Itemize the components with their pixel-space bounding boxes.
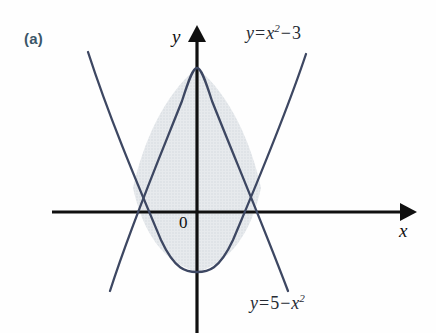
upper-curve-equation-label: y=x2−3 xyxy=(246,22,301,44)
x-axis-arrowhead xyxy=(400,203,417,221)
equation2-exponent: 2 xyxy=(299,292,305,304)
origin-label: 0 xyxy=(179,213,188,233)
equation2-lhs-y: y xyxy=(250,293,258,313)
part-label: (a) xyxy=(24,30,43,47)
equation-term-x: x xyxy=(266,23,274,43)
equation2-equals: = xyxy=(258,293,270,313)
equation-minus: − xyxy=(280,23,292,43)
y-axis-label: y xyxy=(172,26,180,48)
equation-equals: = xyxy=(254,23,266,43)
x-axis-label: x xyxy=(399,220,407,242)
equation2-minus: − xyxy=(279,293,291,313)
lower-curve-equation-label: y=5−x2 xyxy=(250,292,305,314)
equation2-constant: 5 xyxy=(270,293,279,313)
equation-lhs-y: y xyxy=(246,23,254,43)
y-axis-arrowhead xyxy=(188,25,206,42)
equation-exponent: 2 xyxy=(274,22,280,34)
plot-canvas xyxy=(0,0,436,333)
equation-constant: 3 xyxy=(292,23,301,43)
figure-container: (a) y x 0 y=x2−3 y=5−x2 xyxy=(0,0,436,333)
